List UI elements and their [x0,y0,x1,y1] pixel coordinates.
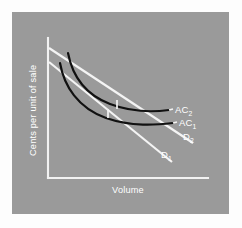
label-d1: D1 [161,149,172,162]
chart-panel: AC2 AC1 D2 D1 Cents per unit of sale Vol… [12,12,229,214]
label-d2: D2 [183,131,194,144]
y-axis-title: Cents per unit of sale [28,65,38,156]
label-ac2-sub: 2 [188,110,192,117]
label-ac2: AC2 [175,104,192,117]
ac2-leader [169,109,173,110]
ac1-leader [173,122,177,123]
label-d2-base: D [183,131,190,142]
cost-curve-ac1 [60,63,173,125]
figure-root: AC2 AC1 D2 D1 Cents per unit of sale Vol… [0,0,242,228]
label-ac1: AC1 [179,117,196,130]
label-ac1-base: AC [179,117,192,128]
label-ac2-base: AC [175,104,188,115]
x-axis-title: Volume [112,185,144,195]
label-d2-sub: 2 [190,137,194,144]
label-ac1-sub: 1 [192,123,196,130]
label-d1-base: D [161,149,168,160]
cost-curve-ac2 [68,53,169,111]
label-d1-sub: 1 [168,155,172,162]
cost-volume-chart: AC2 AC1 D2 D1 Cents per unit of sale Vol… [12,12,229,214]
